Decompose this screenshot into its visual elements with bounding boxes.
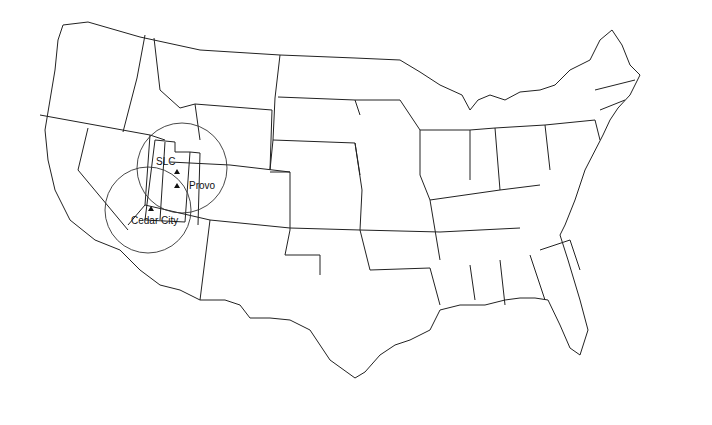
state-borders	[40, 35, 635, 305]
map-canvas: SLC Provo Cedar City	[0, 0, 712, 425]
slc-coverage-circle	[137, 123, 227, 213]
slc-label: SLC	[156, 156, 175, 167]
us-map: SLC Provo Cedar City	[0, 0, 712, 425]
cedar-city-label: Cedar City	[131, 215, 178, 226]
us-outline	[45, 22, 640, 378]
provo-marker-icon	[174, 183, 180, 188]
provo-label: Provo	[189, 180, 216, 191]
slc-marker-icon	[174, 169, 180, 174]
cedar-city-coverage-circle	[105, 167, 191, 253]
